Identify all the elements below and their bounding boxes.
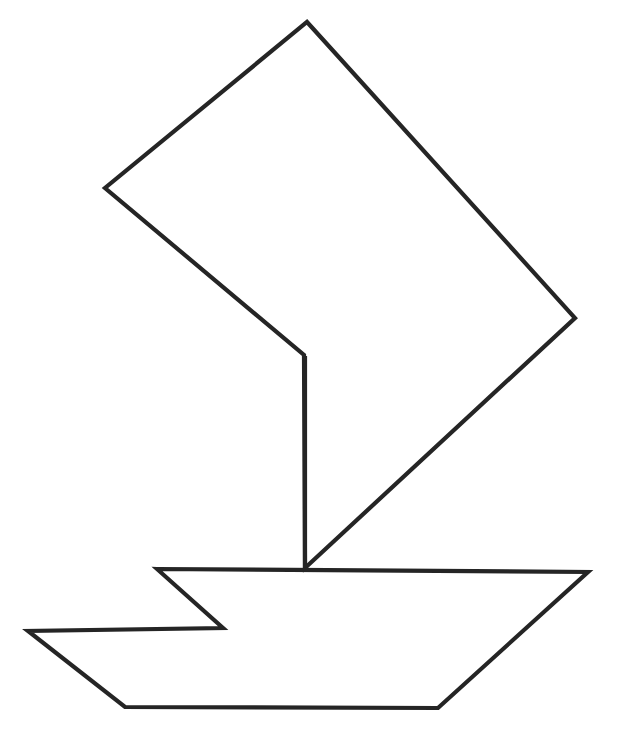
- illustration-canvas: [0, 0, 631, 748]
- sailboat-drawing: [0, 0, 631, 748]
- canvas-background: [0, 0, 631, 748]
